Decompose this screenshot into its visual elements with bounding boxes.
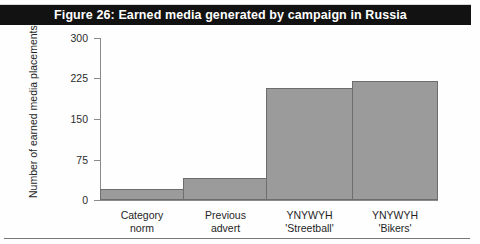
bar-ynywyh-bikers <box>352 81 438 200</box>
y-tick-label-0: 0 <box>82 195 88 206</box>
x-category-label-1-line-1: Previous <box>183 209 268 222</box>
y-tick-label-150: 150 <box>70 114 88 125</box>
x-axis-line <box>100 200 438 201</box>
y-axis-title: Number of earned media placements <box>27 38 39 198</box>
x-category-label-3-line-1: YNYWYH <box>352 209 438 222</box>
x-category-label-3-line-2: 'Bikers' <box>352 222 438 235</box>
y-tick-label-225: 225 <box>70 73 88 84</box>
bar-category-norm <box>100 189 184 200</box>
x-category-label-3: YNYWYH 'Bikers' <box>352 209 438 235</box>
y-tick-label-300: 300 <box>70 33 88 44</box>
y-axis-line <box>100 38 101 201</box>
x-category-label-0-line-1: Category <box>100 209 184 222</box>
x-category-label-1: Previous advert <box>183 209 268 235</box>
bottom-divider <box>4 238 470 239</box>
bar-ynywyh-streetball <box>266 88 353 200</box>
figure-title-bar: Figure 26: Earned media generated by cam… <box>0 4 471 25</box>
bar-previous-advert <box>183 178 268 200</box>
x-category-label-2: YNYWYH 'Streetball' <box>266 209 353 235</box>
x-category-label-0-line-2: norm <box>100 222 184 235</box>
y-tick-label-75: 75 <box>76 155 88 166</box>
x-category-label-0: Category norm <box>100 209 184 235</box>
x-category-label-2-line-1: YNYWYH <box>266 209 353 222</box>
figure-title: Figure 26: Earned media generated by cam… <box>0 8 461 22</box>
x-category-label-2-line-2: 'Streetball' <box>266 222 353 235</box>
figure-container: Figure 26: Earned media generated by cam… <box>0 0 480 244</box>
x-category-label-1-line-2: advert <box>183 222 268 235</box>
